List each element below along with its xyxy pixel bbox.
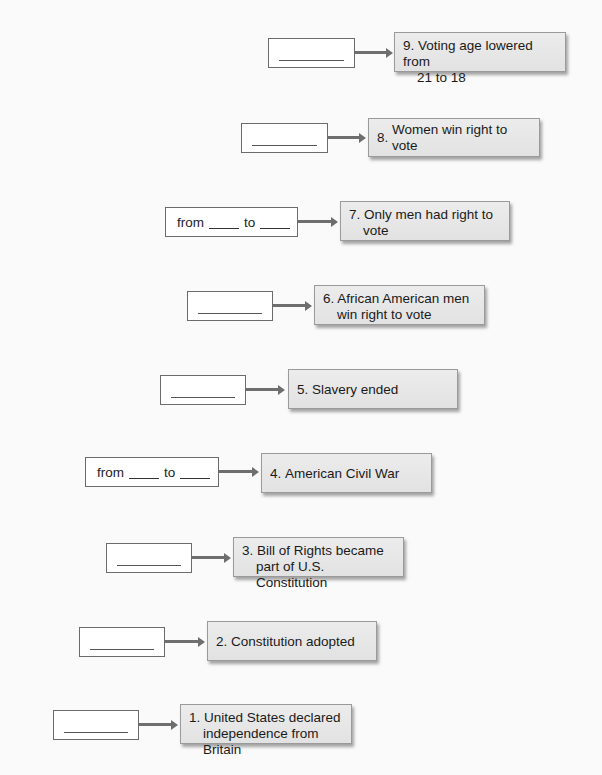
blank-line	[252, 145, 317, 146]
blank-line	[171, 397, 235, 398]
arrow-icon	[165, 640, 200, 643]
blank-line	[90, 649, 154, 650]
blank-line	[279, 60, 344, 61]
event-text-line1: Constitution adopted	[231, 634, 355, 650]
event-number: 2.	[216, 634, 227, 650]
arrow-icon	[298, 220, 333, 223]
event-text-line1: Only men had right to	[364, 207, 493, 222]
event-text-line1: Women win right to vote	[392, 122, 531, 154]
from-blank[interactable]	[209, 216, 239, 229]
event-label-3: 3. Bill of Rights became part of U.S. Co…	[233, 537, 404, 577]
range-from-label: from	[97, 465, 124, 480]
event-number: 3.	[242, 543, 253, 558]
event-text-line1: Slavery ended	[312, 382, 398, 398]
event-text-line1: American Civil War	[285, 466, 399, 482]
event-text-line2: 21 to 18	[403, 70, 557, 86]
event-text-line2: vote	[349, 223, 501, 239]
blank-line	[198, 313, 262, 314]
range-to-label: to	[244, 215, 255, 230]
answer-box-6[interactable]	[187, 291, 273, 321]
arrow-icon	[192, 556, 226, 559]
answer-box-4[interactable]: from to	[85, 457, 219, 487]
range-to-label: to	[164, 465, 175, 480]
arrow-icon	[273, 304, 307, 307]
to-blank[interactable]	[180, 466, 210, 479]
answer-box-3[interactable]	[106, 543, 192, 573]
event-label-1: 1. United States declared independence f…	[180, 704, 352, 744]
event-label-9: 9. Voting age lowered from 21 to 18	[394, 32, 566, 72]
event-number: 6.	[323, 291, 334, 306]
blank-line	[117, 565, 181, 566]
event-number: 5.	[297, 382, 308, 398]
from-blank[interactable]	[129, 466, 159, 479]
event-number: 7.	[349, 207, 360, 222]
event-text-line2: part of U.S. Constitution	[242, 559, 395, 591]
to-blank[interactable]	[260, 216, 290, 229]
event-number: 9.	[403, 38, 414, 53]
answer-box-8[interactable]	[241, 123, 328, 153]
arrow-icon	[355, 51, 388, 54]
answer-box-9[interactable]	[268, 38, 355, 68]
arrow-icon	[246, 388, 280, 391]
answer-box-7[interactable]: from to	[165, 207, 298, 237]
event-text-line1: African American men	[337, 291, 469, 306]
event-label-7: 7. Only men had right to vote	[340, 201, 510, 241]
arrow-icon	[139, 723, 173, 726]
event-label-6: 6. African American men win right to vot…	[314, 285, 485, 325]
arrow-icon	[328, 136, 361, 139]
event-number: 4.	[270, 466, 281, 482]
answer-box-5[interactable]	[160, 375, 246, 405]
event-text-line2: independence from Britain	[189, 726, 343, 758]
blank-line	[64, 732, 128, 733]
range-from-label: from	[177, 215, 204, 230]
event-number: 8.	[377, 130, 388, 146]
event-label-8: 8. Women win right to vote	[368, 118, 540, 157]
event-text-line1: Bill of Rights became	[257, 543, 384, 558]
answer-box-2[interactable]	[79, 627, 165, 657]
answer-box-1[interactable]	[53, 710, 139, 740]
event-label-4: 4. American Civil War	[261, 453, 432, 493]
event-label-5: 5. Slavery ended	[288, 369, 458, 409]
event-label-2: 2. Constitution adopted	[207, 621, 377, 661]
event-text-line2: win right to vote	[323, 307, 476, 323]
event-text-line1: Voting age lowered from	[403, 38, 533, 69]
event-number: 1.	[189, 710, 200, 725]
event-text-line1: United States declared	[204, 710, 341, 725]
arrow-icon	[219, 470, 254, 473]
